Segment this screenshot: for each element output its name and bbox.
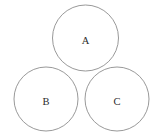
circle-c-label: C <box>113 96 120 107</box>
three-circles-diagram: A B C <box>0 0 164 137</box>
circle-a-label: A <box>82 35 90 46</box>
diagram-canvas: A B C <box>0 0 164 137</box>
circle-b-label: B <box>42 96 49 107</box>
